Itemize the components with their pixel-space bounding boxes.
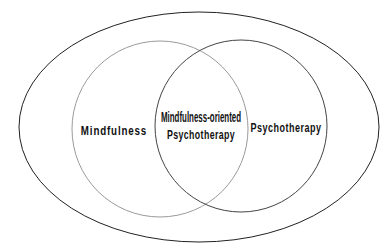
mindfulness-label: Mindfulness [81,122,147,137]
psychotherapy-label: Psychotherapy [250,120,321,134]
overlap-label-line2: Psychotherapy [167,127,235,141]
venn-diagram: Mindfulness Mindfulness-oriented Psychot… [0,0,392,252]
overlap-label-line1: Mindfulness-oriented [161,110,241,125]
